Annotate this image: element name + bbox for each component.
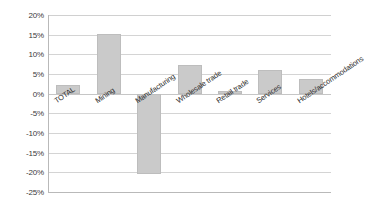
gridline-neg15 [48, 153, 331, 154]
y-tick-label: 20% [10, 11, 44, 20]
y-tick-label: 5% [10, 70, 44, 79]
y-tick-label: 0% [10, 89, 44, 98]
y-tick-label: -25% [10, 188, 44, 197]
y-tick-label: -15% [10, 148, 44, 157]
y-axis-line [48, 15, 49, 193]
gridline-15 [48, 35, 331, 36]
gridline-20 [48, 15, 331, 16]
y-tick-label: 10% [10, 50, 44, 59]
y-tick-label: -20% [10, 168, 44, 177]
gridline-neg20 [48, 172, 331, 173]
y-tick-label: -10% [10, 129, 44, 138]
plot-area [48, 15, 331, 192]
gridline-neg5 [48, 113, 331, 114]
y-axis-tick-labels: 20%15%10%5%0%-5%-10%-15%-20%-25% [0, 15, 44, 192]
gridline-neg25 [48, 192, 331, 193]
y-tick-label: 15% [10, 30, 44, 39]
y-tick-label: -5% [10, 109, 44, 118]
gridline-10 [48, 54, 331, 55]
bar-manufacturing[interactable] [137, 94, 161, 174]
gridline-neg10 [48, 133, 331, 134]
bar-mining[interactable] [97, 34, 121, 93]
